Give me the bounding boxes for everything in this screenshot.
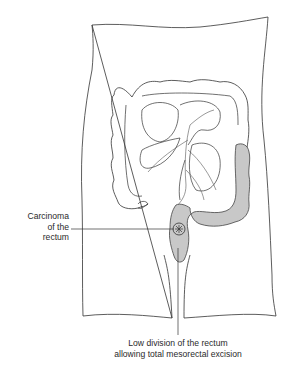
division-label: Low division of the rectum allowing tota… [90,338,266,359]
division-label-line-1: Low division of the rectum [90,338,266,349]
perineum-lines [164,255,190,318]
carcinoma-label-line-2: of the [6,222,69,233]
small-intestine [140,101,220,200]
carcinoma-label: Carcinoma of the rectum [6,211,69,243]
anatomy-diagram [0,0,292,365]
carcinoma-label-line-1: Carcinoma [6,211,69,222]
resected-colon-segment [169,144,249,262]
tumor-star-icon [175,225,183,233]
colon-inner-wall [125,93,238,196]
division-label-line-2: allowing total mesorectal excision [90,349,266,360]
carcinoma-label-line-3: rectum [6,232,69,243]
colon-outline [111,80,249,209]
